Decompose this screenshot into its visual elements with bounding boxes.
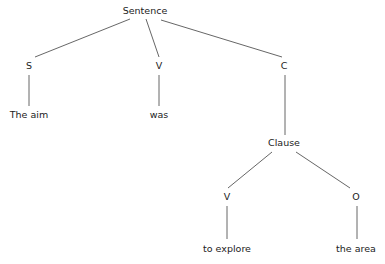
tree-edges bbox=[0, 0, 385, 264]
node-s: S bbox=[26, 61, 32, 71]
edge-sentence-v bbox=[146, 19, 159, 57]
node-clause-v: V bbox=[224, 192, 231, 202]
node-o: O bbox=[352, 192, 359, 202]
edge-clause-v bbox=[228, 152, 272, 188]
edge-sentence-c bbox=[161, 20, 282, 57]
node-the-aim: The aim bbox=[10, 110, 48, 120]
node-was: was bbox=[150, 110, 169, 120]
node-sentence: Sentence bbox=[123, 6, 168, 16]
edge-clause-o bbox=[296, 152, 350, 188]
node-to-explore: to explore bbox=[203, 244, 251, 254]
node-clause: Clause bbox=[268, 138, 300, 148]
node-v: V bbox=[156, 61, 163, 71]
node-the-area: the area bbox=[336, 244, 376, 254]
node-c: C bbox=[281, 61, 288, 71]
edge-sentence-s bbox=[35, 19, 130, 57]
